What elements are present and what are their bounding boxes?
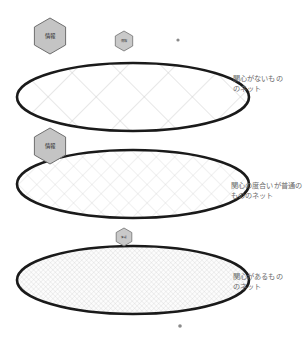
diagram-canvas: 情報 情報 情報 情報 関心がないもの のネット 関心の度合いが普通の もののネ…: [0, 0, 308, 342]
net-coarse-label: 関心がないもの のネット: [233, 74, 283, 94]
net-medium-label: 関心の度合いが普通の もののネット: [231, 181, 302, 201]
hexagon-information-top[interactable]: 情報: [34, 18, 65, 54]
hexagon-information-top-small[interactable]: 情報: [115, 31, 132, 51]
net-fine-label: 関心があるもの のネット: [233, 272, 283, 292]
net-coarse-group: [17, 63, 249, 131]
hexagon-information-middle-label: 情報: [45, 142, 56, 150]
hexagon-information-top-small-label: 情報: [121, 38, 128, 43]
dot-marker-top-right: [176, 38, 179, 41]
hexagon-information-bottom-small-label: 情報: [121, 235, 127, 239]
hexagon-information-bottom-small[interactable]: 情報: [116, 228, 132, 246]
hexagon-information-top-label: 情報: [45, 32, 56, 40]
dot-marker-bottom: [178, 324, 182, 328]
net-fine-group: [17, 246, 249, 314]
